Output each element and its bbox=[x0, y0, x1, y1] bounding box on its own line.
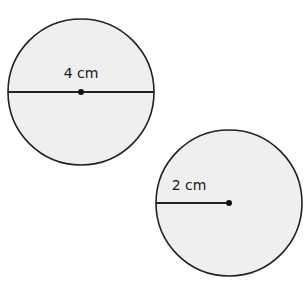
circles-diagram: 4 cm 2 cm bbox=[0, 0, 307, 288]
center-dot bbox=[78, 89, 84, 95]
radius-circle-group: 2 cm bbox=[156, 130, 302, 276]
diameter-label: 4 cm bbox=[64, 65, 99, 81]
center-dot bbox=[226, 200, 232, 206]
diameter-circle-group: 4 cm bbox=[8, 19, 154, 165]
radius-label: 2 cm bbox=[172, 177, 207, 193]
